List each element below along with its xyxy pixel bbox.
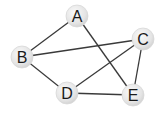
node-label: C xyxy=(137,31,149,48)
node-b: B xyxy=(11,46,33,68)
node-c: C xyxy=(132,28,154,50)
edges-layer xyxy=(22,16,143,95)
node-label: D xyxy=(61,85,73,102)
graph-diagram: ABCDE xyxy=(0,0,167,115)
edge-a-e xyxy=(77,16,133,95)
nodes-layer: ABCDE xyxy=(11,5,154,106)
node-e: E xyxy=(122,84,144,106)
node-d: D xyxy=(56,82,78,104)
node-label: A xyxy=(72,8,83,25)
edge-b-c xyxy=(22,39,143,57)
node-label: B xyxy=(17,49,28,66)
node-a: A xyxy=(66,5,88,27)
node-label: E xyxy=(128,87,139,104)
